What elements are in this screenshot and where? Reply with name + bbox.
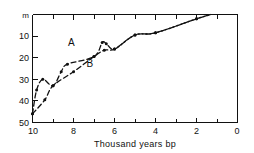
data-point [52,84,55,87]
series-label-a: A [68,37,75,48]
data-point [154,31,157,34]
series-a [31,15,211,116]
x-tick-label-10: 10 [28,126,38,136]
x-tick-label-4: 4 [153,126,158,136]
data-point [31,112,34,115]
sea-level-curve-chart: m 10 20 30 40 50 10 8 6 4 2 0 Thousand y… [0,0,254,153]
x-tick-label-2: 2 [194,126,199,136]
y-axis-tick-labels: m 10 20 30 40 50 [19,11,29,128]
data-point [35,89,38,92]
series-label-b: B [87,58,94,69]
data-point [105,42,108,45]
x-tick-label-6: 6 [112,126,117,136]
data-point [101,41,104,44]
chart-figure: m 10 20 30 40 50 10 8 6 4 2 0 Thousand y… [0,0,254,153]
data-point [60,70,63,73]
x-axis-ticks [33,15,238,123]
data-point [72,70,75,73]
data-point [66,63,69,66]
y-tick-label-10: 10 [19,31,29,41]
series-a-line [33,15,211,114]
series-b-line [33,15,211,114]
y-axis-unit-label: m [22,11,29,20]
x-tick-label-8: 8 [71,126,76,136]
data-point [134,34,137,37]
x-tick-label-0: 0 [234,126,239,136]
y-tick-label-30: 30 [19,75,29,85]
x-axis-tick-labels: 10 8 6 4 2 0 [28,126,240,136]
y-tick-label-40: 40 [19,96,29,106]
x-axis-title: Thousand years bp [94,139,176,149]
data-point [41,78,44,81]
series-b [31,15,211,116]
data-point [43,98,46,101]
data-point [195,17,198,20]
data-point [103,49,106,52]
data-point [113,48,116,51]
curve-layer [31,15,211,116]
axis-frame [33,15,238,123]
y-tick-label-20: 20 [19,53,29,63]
